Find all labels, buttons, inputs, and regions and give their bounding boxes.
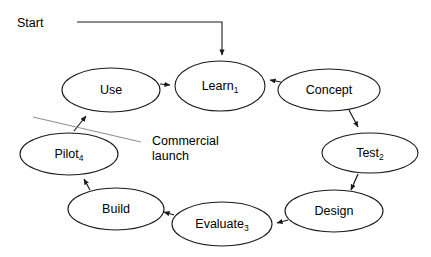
edge-test-to-design [351, 174, 358, 190]
annotation-label-line2: launch [152, 149, 189, 163]
node-label-concept: Concept [306, 83, 353, 97]
edge-build-to-pilot [84, 179, 90, 190]
edge-concept-to-test [349, 110, 358, 127]
edge-use-to-learn [160, 84, 170, 85]
edge-design-to-evaluate [277, 220, 288, 223]
node-label-build: Build [102, 202, 130, 216]
node-label-design: Design [315, 204, 354, 218]
node-label-evaluate: Evaluate3 [195, 217, 249, 232]
node-label-learn: Learn1 [202, 79, 239, 94]
node-label-use: Use [100, 83, 122, 97]
edge-evaluate-to-build [164, 212, 174, 215]
annotation-label-line1: Commercial [152, 134, 219, 148]
edge-start-to-learn [77, 22, 222, 55]
edge-concept-to-learn [270, 80, 281, 82]
start-label: Start [17, 16, 44, 30]
diagram-svg: Learn1 Concept Test2 Design Evaluate3 Bu… [0, 0, 431, 257]
cycle-diagram-canvas: Learn1 Concept Test2 Design Evaluate3 Bu… [0, 0, 431, 257]
